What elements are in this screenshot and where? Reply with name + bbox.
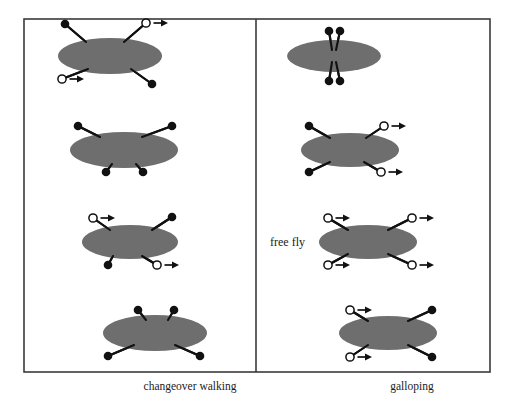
foot-hind-right-open bbox=[346, 353, 354, 361]
foot-front-right-filled bbox=[305, 122, 314, 131]
foot-front-right-filled bbox=[134, 306, 143, 315]
foot-front-left-filled bbox=[168, 122, 177, 131]
foot-front-left-filled bbox=[428, 306, 437, 315]
body-ellipse bbox=[287, 40, 381, 72]
foot-hind-right-filled bbox=[104, 261, 113, 270]
foot-front-right-open bbox=[89, 214, 97, 222]
foot-hind-left-open bbox=[408, 261, 416, 269]
caption-galloping: galloping bbox=[390, 380, 434, 393]
gait-diagram-canvas: free fly changeover walking galloping bbox=[0, 0, 505, 400]
foot-front-left-filled bbox=[170, 306, 179, 315]
body-ellipse bbox=[103, 315, 207, 351]
gait-figure: free fly changeover walking galloping bbox=[0, 0, 505, 400]
foot-hind-left-open bbox=[377, 168, 385, 176]
foot-front-left-filled bbox=[336, 27, 345, 36]
foot-front-right-filled bbox=[325, 27, 334, 36]
foot-hind-left-open bbox=[153, 261, 161, 269]
foot-hind-right-open bbox=[324, 261, 332, 269]
foot-hind-left-filled bbox=[196, 352, 205, 361]
foot-front-right-open bbox=[346, 306, 354, 314]
foot-front-right-filled bbox=[74, 122, 83, 131]
body-ellipse bbox=[301, 133, 399, 167]
body-ellipse bbox=[319, 225, 417, 259]
foot-hind-right-filled bbox=[102, 168, 111, 177]
foot-front-left-filled bbox=[168, 213, 177, 222]
body-ellipse bbox=[339, 316, 437, 350]
body-ellipse bbox=[70, 132, 178, 168]
foot-hind-right-filled bbox=[325, 77, 334, 86]
foot-hind-left-filled bbox=[336, 77, 345, 86]
free-fly-label: free fly bbox=[270, 235, 305, 249]
foot-hind-right-open bbox=[58, 75, 66, 83]
foot-hind-right-filled bbox=[104, 352, 113, 361]
annotations-layer: free fly bbox=[270, 235, 305, 249]
foot-hind-left-filled bbox=[139, 168, 148, 177]
caption-changeover-walking: changeover walking bbox=[144, 380, 237, 393]
foot-hind-right-filled bbox=[305, 168, 314, 177]
foot-front-left-open bbox=[380, 122, 388, 130]
foot-front-right-filled bbox=[61, 20, 70, 29]
body-ellipse bbox=[82, 225, 178, 259]
foot-front-left-open bbox=[408, 214, 416, 222]
body-ellipse bbox=[58, 38, 162, 74]
foot-front-right-open bbox=[324, 214, 332, 222]
foot-hind-left-filled bbox=[148, 80, 157, 89]
foot-hind-left-filled bbox=[428, 353, 437, 362]
foot-front-left-open bbox=[142, 19, 150, 27]
